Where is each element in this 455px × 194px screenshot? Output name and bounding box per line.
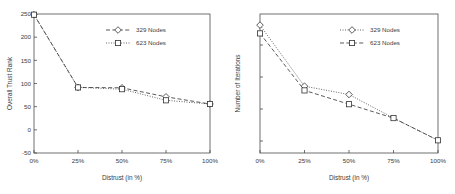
right-legend-entry-329: 329 Nodes [340,26,400,33]
right-x-ticklabel: 50% [343,157,356,164]
left-y-ticklabel: 50 [24,103,31,110]
left-y-ticklabels: 250 200 150 100 50 0 -50 [21,10,32,156]
diamond-marker-icon [115,27,122,34]
left-chart-svg: 250 200 150 100 50 0 -50 0% 25% 50% [0,0,227,194]
left-series-623-markers [31,12,212,107]
right-x-ticklabel: 100% [430,157,446,164]
diamond-marker-icon [349,27,356,34]
figure-container: 250 200 150 100 50 0 -50 0% 25% 50% [0,0,455,194]
left-x-ticklabel: 0% [30,157,39,164]
right-chart-svg: 0% 25% 50% 75% 100% Distrust (in %) Numb… [228,0,455,194]
right-legend-entry-623: 623 Nodes [340,39,400,46]
left-x-ticklabel: 50% [116,157,129,164]
left-y-ticklabel: 0 [28,126,32,133]
right-legend-label-329: 329 Nodes [370,26,400,33]
left-y-ticklabel: 250 [21,10,32,17]
right-legend: 329 Nodes 623 Nodes [340,26,400,46]
chart-panel-right: 0% 25% 50% 75% 100% Distrust (in %) Numb… [228,0,455,194]
left-x-ticks [34,150,210,153]
square-marker-icon [115,40,120,45]
right-series-623-line [260,33,438,140]
right-x-ticklabel: 75% [387,157,400,164]
left-legend-label-623: 623 Nodes [136,39,166,46]
left-series-329-markers [31,11,214,107]
right-legend-label-623: 623 Nodes [370,39,400,46]
right-x-ticklabels: 0% 25% 50% 75% 100% [256,157,447,164]
chart-panel-left: 250 200 150 100 50 0 -50 0% 25% 50% [0,0,227,194]
left-plot-frame [34,14,210,153]
right-y-ticks [260,45,263,141]
right-series-623-markers [257,31,440,143]
left-legend: 329 Nodes 623 Nodes [106,26,166,46]
right-plot-frame [260,14,438,153]
left-x-ticklabel: 25% [72,157,85,164]
left-legend-entry-623: 623 Nodes [106,39,166,46]
right-x-ticklabel: 25% [298,157,311,164]
left-x-axis-title: Distrust (in %) [102,174,142,182]
left-y-ticklabel: -50 [22,149,32,156]
left-y-ticklabel: 150 [21,57,32,64]
right-y-axis-title: Number of Iterations [234,55,241,113]
left-y-ticklabel: 100 [21,80,32,87]
left-x-ticklabel: 75% [160,157,173,164]
square-marker-icon [349,40,354,45]
left-legend-entry-329: 329 Nodes [106,26,166,33]
left-y-axis-title: Overall Trust Rank [6,56,13,110]
right-x-ticklabel: 0% [256,157,265,164]
right-x-ticks [260,150,438,153]
left-y-ticklabel: 200 [21,33,32,40]
left-y-ticks [34,14,37,153]
left-x-ticklabel: 100% [202,157,218,164]
right-x-axis-title: Distrust (in %) [329,174,369,182]
right-series-329-markers [257,22,353,98]
left-x-ticklabels: 0% 25% 50% 75% 100% [30,157,219,164]
left-legend-label-329: 329 Nodes [136,26,166,33]
